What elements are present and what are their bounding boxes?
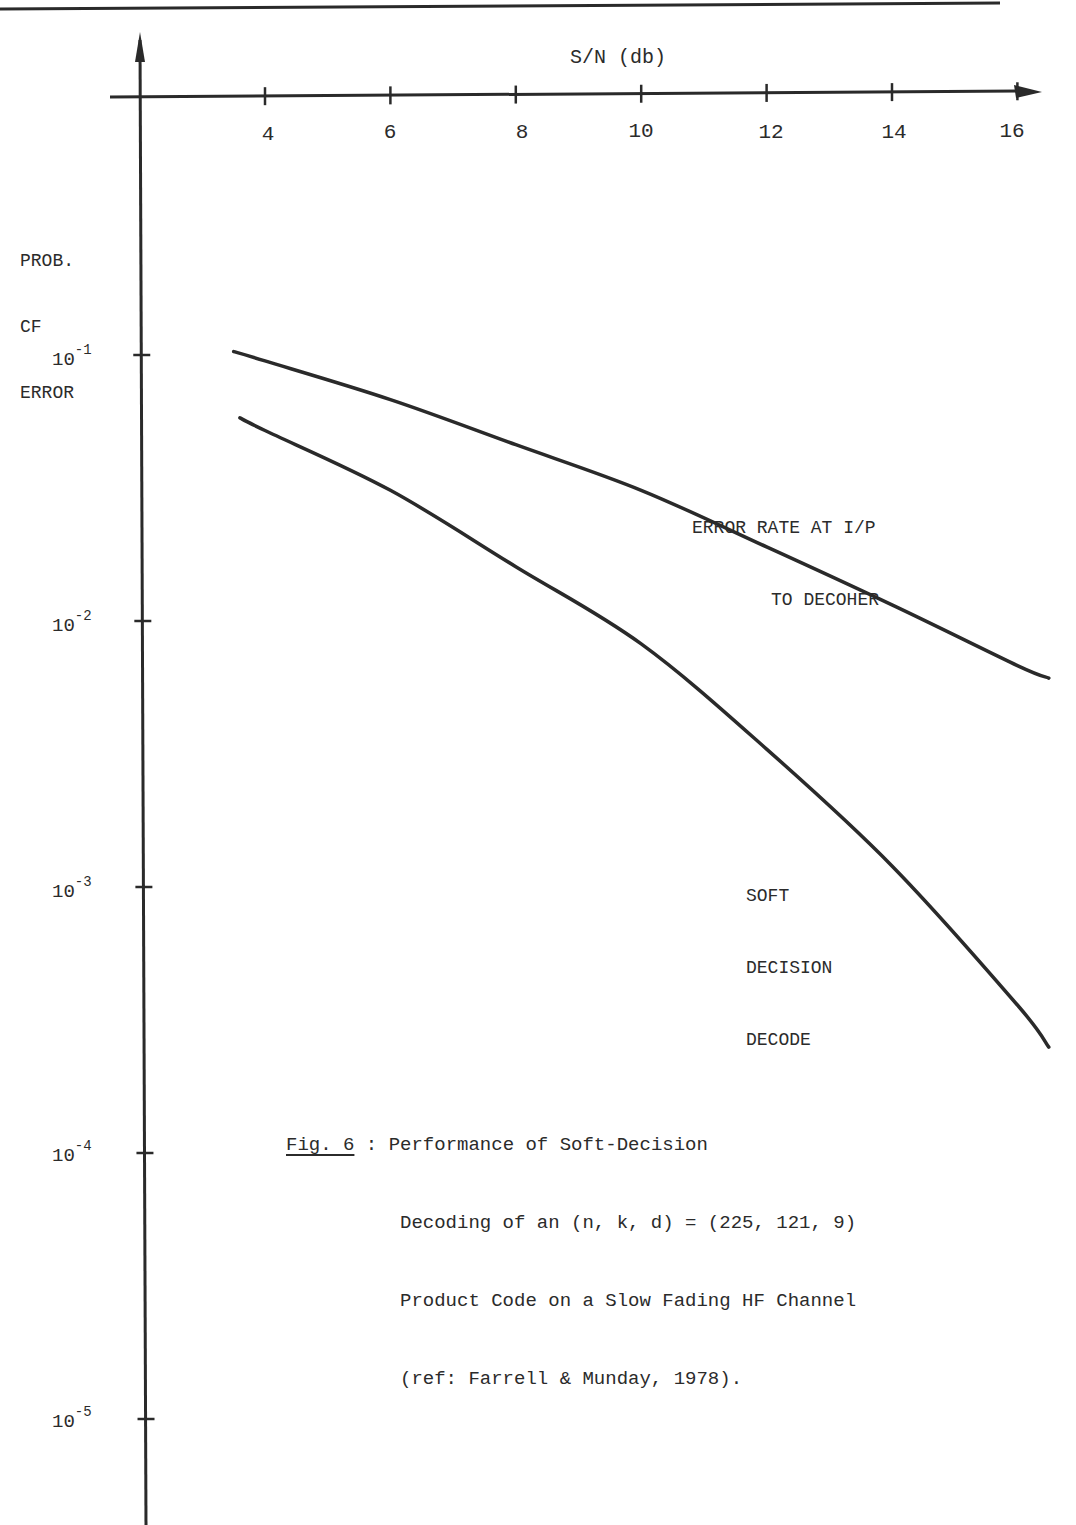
x-tick-label: 14 <box>881 122 906 143</box>
x-tick-label: 8 <box>516 122 529 143</box>
annotation-line: DECISION <box>746 956 832 980</box>
caption-line: Decoding of an (n, k, d) = (225, 121, 9) <box>286 1210 856 1236</box>
annotation-error-rate: ERROR RATE AT I/P TO DECOHER <box>692 468 879 636</box>
caption-line: (ref: Farrell & Munday, 1978). <box>286 1366 856 1392</box>
annotation-soft-decision: SOFT DECISION DECODE <box>746 836 832 1076</box>
y-tick-label: 10-1 <box>52 347 92 370</box>
x-tick-label: 6 <box>384 122 397 143</box>
x-tick-label: 10 <box>628 121 653 142</box>
y-tick-label: 10-3 <box>52 879 92 902</box>
figure-label: Fig. 6 <box>286 1134 354 1156</box>
caption-line: Fig. 6 : Performance of Soft-Decision <box>286 1132 856 1158</box>
y-tick-label: 10-2 <box>52 613 92 636</box>
curve-soft-decision-decode <box>240 418 1049 1047</box>
x-axis-title: S/N (db) <box>570 48 666 68</box>
page-top-rule <box>0 3 1000 9</box>
x-tick-label: 16 <box>999 121 1024 142</box>
y-axis-arrow-icon <box>135 32 145 62</box>
x-tick-label: 12 <box>758 122 783 143</box>
y-axis-title-line: PROB. <box>20 250 74 272</box>
y-axis-title-line: CF <box>20 316 74 338</box>
y-axis-title-line: ERROR <box>20 382 74 404</box>
annotation-line: TO DECOHER <box>692 588 879 612</box>
annotation-line: SOFT <box>746 884 832 908</box>
annotation-line: ERROR RATE AT I/P <box>692 516 879 540</box>
caption-line: Product Code on a Slow Fading HF Channel <box>286 1288 856 1314</box>
x-axis <box>110 91 1020 97</box>
y-tick-label: 10-4 <box>52 1143 92 1166</box>
y-axis <box>140 40 146 1525</box>
y-tick-label: 10-5 <box>52 1409 92 1432</box>
annotation-line: DECODE <box>746 1028 832 1052</box>
y-axis-title: PROB. CF ERROR <box>20 206 74 426</box>
x-tick-label: 4 <box>262 124 275 145</box>
curve-error-rate-input <box>234 352 1049 678</box>
figure-caption: Fig. 6 : Performance of Soft-Decision De… <box>286 1080 856 1418</box>
